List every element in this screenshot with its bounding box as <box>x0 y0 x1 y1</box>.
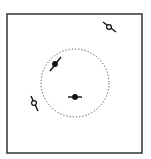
marker-inner-upper <box>50 57 61 71</box>
marker-left <box>31 96 38 111</box>
square-frame <box>7 14 142 153</box>
filled-dot-icon <box>73 95 78 100</box>
open-circle-icon <box>32 101 37 106</box>
diagram-canvas <box>0 0 151 159</box>
marker-top-right <box>103 22 116 32</box>
filled-dot-icon <box>53 62 58 67</box>
dotted-circle <box>41 49 109 117</box>
markers-group <box>31 22 116 111</box>
open-circle-icon <box>107 25 112 30</box>
marker-center <box>68 95 82 100</box>
